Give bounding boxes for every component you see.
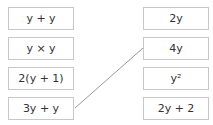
left-item-3[interactable]: 2(y + 1) (8, 67, 74, 90)
right-item-4[interactable]: 2y + 2 (143, 97, 209, 120)
right-item-1[interactable]: 2y (143, 7, 209, 30)
left-item-1[interactable]: y + y (8, 7, 74, 30)
right-item-3[interactable]: y² (143, 67, 209, 90)
right-item-2[interactable]: 4y (143, 37, 209, 60)
left-item-4[interactable]: 3y + y (8, 97, 74, 120)
left-item-2[interactable]: y × y (8, 37, 74, 60)
